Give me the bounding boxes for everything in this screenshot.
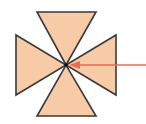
center-point xyxy=(64,63,68,67)
pinwheel-diagram xyxy=(0,0,146,124)
diagram-canvas xyxy=(0,0,146,124)
